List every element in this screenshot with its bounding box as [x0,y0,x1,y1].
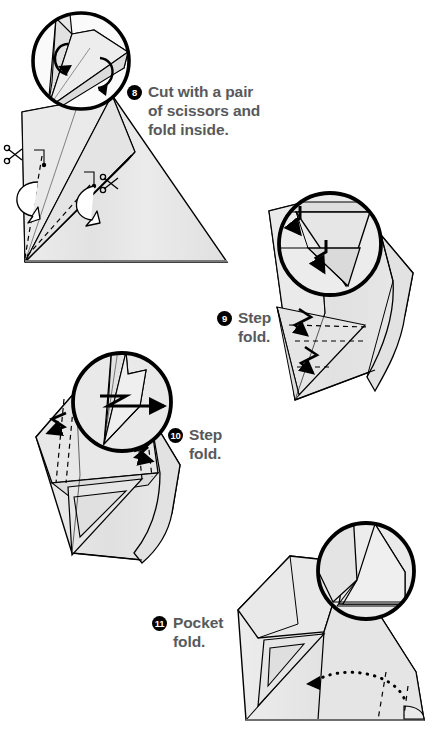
step-9-caption-text: Step fold. [238,308,271,346]
step-10-magnifier [68,348,176,456]
step-11-caption: 11 Pocket fold. [152,613,262,651]
step-8-caption-text: Cut with a pair of scissors and fold ins… [148,82,260,139]
step-8-badge: 8 [127,85,142,100]
magnifier-content [68,344,176,456]
step-9-badge: 9 [217,311,232,326]
magnifier-content [307,512,419,624]
step-8-magnifier [28,8,134,114]
step-10-caption-text: Step fold. [189,425,222,463]
step-11-badge: 11 [152,616,167,631]
step-9-magnifier [274,188,386,300]
step-11-magnifier [313,518,419,624]
step-10-caption: 10 Step fold. [168,425,263,463]
scissors-icon [4,145,22,163]
step-9-caption: 9 Step fold. [217,308,312,346]
step-8-caption: 8 Cut with a pair of scissors and fold i… [127,82,297,139]
step-11-caption-text: Pocket fold. [173,613,223,651]
origami-instruction-sheet: 8 Cut with a pair of scissors and fold i… [0,0,441,741]
magnifier-content [268,188,386,300]
step-10-badge: 10 [168,428,183,443]
